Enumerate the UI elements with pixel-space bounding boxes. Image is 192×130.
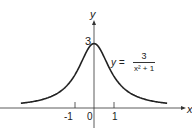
x-tick-label-neg1: -1 bbox=[64, 112, 73, 122]
y-axis-label: y bbox=[90, 9, 96, 20]
equation-numerator: 3 bbox=[134, 52, 154, 61]
y-tick-label-3: 3 bbox=[85, 36, 91, 47]
x-axis-label: x bbox=[187, 104, 192, 115]
x-axis-arrow-icon bbox=[181, 106, 186, 110]
chart-canvas bbox=[0, 0, 192, 130]
equation-denominator: x² + 1 bbox=[130, 65, 158, 73]
y-axis-arrow-icon bbox=[92, 20, 96, 25]
x-tick-label-1: 1 bbox=[112, 112, 118, 122]
equation-lhs: y = bbox=[111, 58, 125, 68]
fraction-bar bbox=[133, 62, 155, 63]
x-tick-label-0: 0 bbox=[87, 112, 93, 122]
